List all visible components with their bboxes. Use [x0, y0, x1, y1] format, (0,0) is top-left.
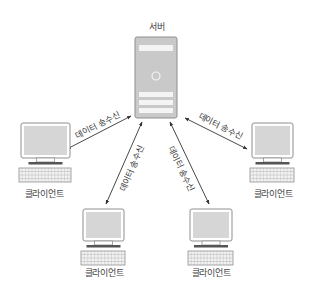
monitor-neck	[95, 241, 113, 245]
computer-icon-bottom-right	[188, 209, 233, 265]
server-slot	[139, 100, 173, 105]
computer-icon-left	[19, 123, 71, 182]
client-server-diagram: 서버 클라이언트 클라이언트 클라이언트 클라이언트 데이터 송수신 데이터 송…	[0, 0, 311, 293]
monitor-base	[29, 162, 63, 165]
monitor-base	[256, 162, 290, 165]
monitor-neck	[264, 158, 282, 162]
diagram-canvas	[0, 0, 311, 293]
server-label: 서버	[149, 20, 164, 33]
client-label-bottom-left: 클라이언트	[85, 266, 124, 279]
monitor-screen	[255, 126, 290, 155]
monitor-screen	[193, 212, 229, 238]
server-slot	[139, 108, 173, 113]
monitor-neck	[202, 241, 220, 245]
server-icon	[135, 37, 177, 118]
monitor-screen	[24, 126, 67, 155]
monitor-neck	[37, 158, 55, 162]
computer-icon-right	[250, 123, 294, 182]
client-label-bottom-right: 클라이언트	[192, 266, 231, 279]
computer-icon-bottom-left	[81, 209, 125, 265]
monitor-screen	[86, 212, 121, 238]
monitor-base	[194, 245, 228, 248]
client-label-left: 클라이언트	[25, 187, 64, 200]
client-label-right: 클라이언트	[254, 187, 293, 200]
server-drive-bay	[139, 45, 173, 51]
monitor-base	[87, 245, 121, 248]
server-slot	[139, 92, 173, 97]
